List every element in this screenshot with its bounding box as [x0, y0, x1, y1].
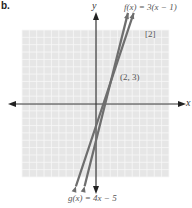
y-axis-label: y [92, 0, 96, 11]
graph [0, 0, 192, 208]
line-arrow-icon [129, 13, 134, 19]
g-label: g(x) = 4x − 5 [68, 193, 117, 203]
x-axis-label: x [186, 97, 190, 108]
line-arrow-icon [81, 186, 86, 192]
g-label-text: g(x) = 4x − 5 [68, 193, 117, 203]
y-axis-top-arrow-icon [93, 12, 99, 20]
f-label: f(x) = 3(x − 1) [124, 2, 177, 12]
line-arrow-icon [72, 186, 77, 192]
x-axis-left-arrow-icon [8, 101, 16, 107]
x-axis-right-arrow-icon [178, 101, 186, 107]
points-label: [2] [145, 29, 156, 39]
intersection-label: (2, 3) [120, 72, 140, 82]
f-label-text: f(x) = 3(x − 1) [124, 2, 177, 12]
